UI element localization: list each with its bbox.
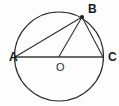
geometry-canvas: A B C O bbox=[0, 0, 119, 106]
point-label-A: A bbox=[9, 50, 18, 64]
point-label-B: B bbox=[88, 2, 97, 16]
point-label-C: C bbox=[108, 50, 117, 64]
segment-BC-chord bbox=[82, 17, 103, 57]
point-label-O: O bbox=[56, 61, 65, 73]
geometry-diagram: A B C O bbox=[0, 0, 119, 106]
segment-AB-chord bbox=[15, 17, 82, 57]
segment-OB-radius bbox=[59, 17, 82, 57]
vertex-dot-B bbox=[80, 15, 84, 19]
